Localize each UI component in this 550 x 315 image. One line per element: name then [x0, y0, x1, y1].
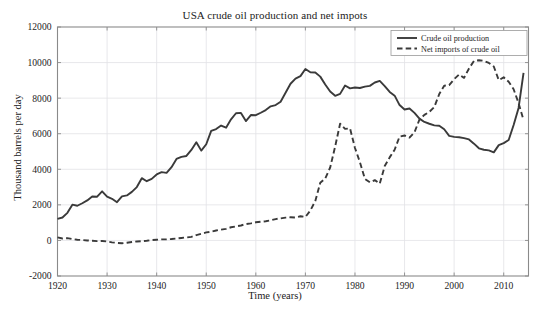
plot-area: 1920193019401950196019701980199020002010…	[0, 0, 550, 315]
x-tick-label: 1930	[97, 280, 116, 291]
legend-label-2: Net imports of crude oil	[421, 45, 500, 54]
y-tick-label: 2000	[32, 199, 51, 210]
y-tick-label: 10000	[28, 57, 52, 68]
y-tick-label: 0	[47, 235, 52, 246]
x-axis-label: Time (years)	[0, 290, 550, 301]
y-tick-label: 12000	[28, 21, 52, 32]
x-tick-label: 2000	[445, 280, 464, 291]
series-line-1	[58, 69, 524, 219]
x-tick-label: 1980	[345, 280, 364, 291]
x-tick-label: 2010	[494, 280, 513, 291]
data-series-layer	[58, 60, 524, 243]
y-axis-label: Thousand barrels per day	[12, 58, 23, 238]
axis-frame	[58, 27, 529, 276]
x-tick-label: 1970	[296, 280, 315, 291]
y-tick-label: -2000	[29, 270, 52, 281]
axis-ticks	[58, 27, 529, 276]
x-tick-label: 1960	[246, 280, 265, 291]
gridlines	[58, 27, 529, 276]
legend-box: Crude oil productionNet imports of crude…	[391, 31, 527, 56]
x-tick-label: 1940	[147, 280, 166, 291]
tick-labels: 1920193019401950196019701980199020002010…	[28, 21, 514, 290]
x-tick-label: 1990	[395, 280, 414, 291]
y-tick-label: 6000	[32, 128, 51, 139]
y-tick-label: 4000	[32, 164, 51, 175]
y-tick-label: 8000	[32, 93, 51, 104]
series-line-2	[58, 60, 524, 243]
chart-figure: USA crude oil production and net impots …	[0, 0, 550, 315]
legend-label-1: Crude oil production	[421, 34, 489, 43]
x-tick-label: 1950	[197, 280, 216, 291]
